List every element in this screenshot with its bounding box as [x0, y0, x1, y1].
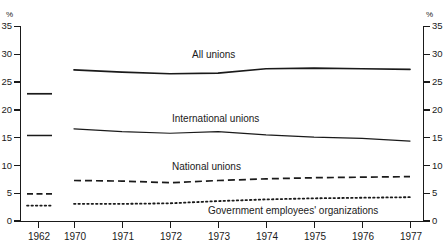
- left-axis: [14, 26, 21, 222]
- series-line-all-unions: [74, 68, 410, 74]
- x-tick-1975: 1975: [290, 231, 340, 242]
- series-label-international-unions: International unions: [172, 113, 259, 124]
- series-line-government-employees: [74, 197, 410, 204]
- series-line-national-unions: [74, 177, 410, 183]
- series-label-national-unions: National unions: [172, 161, 241, 172]
- y-tick-left-15: 15: [0, 133, 12, 143]
- reference-segments-1962: [27, 94, 52, 206]
- y-tick-right-5: 5: [432, 188, 444, 198]
- x-tick-1977: 1977: [386, 231, 436, 242]
- y-tick-left-5: 5: [0, 188, 12, 198]
- x-tick-1973: 1973: [194, 231, 244, 242]
- union-membership-chart: % % 35 30 25 20 15 10 5 0 35 30 25 20 15…: [0, 0, 444, 247]
- y-tick-right-15: 15: [432, 133, 444, 143]
- x-tick-1970: 1970: [50, 231, 100, 242]
- y-tick-right-35: 35: [432, 21, 444, 31]
- series-label-all-unions: All unions: [192, 49, 235, 60]
- y-tick-right-30: 30: [432, 49, 444, 59]
- x-tick-1971: 1971: [98, 231, 148, 242]
- series-label-government-employees: Government employees' organizations: [208, 205, 378, 216]
- y-tick-left-25: 25: [0, 77, 12, 87]
- y-tick-left-30: 30: [0, 49, 12, 59]
- y-tick-right-10: 10: [432, 161, 444, 171]
- y-tick-left-35: 35: [0, 21, 12, 31]
- x-axis: [20, 222, 424, 229]
- y-axis-unit-right: %: [426, 10, 433, 19]
- y-tick-left-10: 10: [0, 161, 12, 171]
- y-axis-unit-left: %: [6, 10, 13, 19]
- y-tick-right-25: 25: [432, 77, 444, 87]
- x-tick-1974: 1974: [242, 231, 292, 242]
- series-line-international-unions: [74, 129, 410, 141]
- x-tick-1976: 1976: [338, 231, 388, 242]
- right-axis: [424, 26, 431, 222]
- y-tick-left-20: 20: [0, 105, 12, 115]
- x-tick-1972: 1972: [146, 231, 196, 242]
- y-tick-left-0: 0: [0, 216, 12, 226]
- y-tick-right-20: 20: [432, 105, 444, 115]
- y-tick-right-0: 0: [432, 216, 444, 226]
